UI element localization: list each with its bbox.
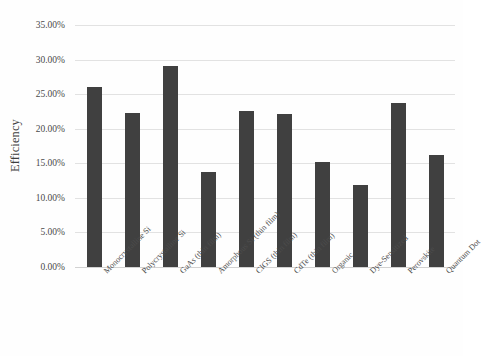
y-axis-title-text: Efficiency: [8, 119, 23, 172]
y-axis-tick-label: 20.00%: [5, 124, 65, 134]
y-axis-tick-label: 25.00%: [5, 89, 65, 99]
y-axis-title: Efficiency: [2, 0, 28, 290]
y-axis-tick-label: 15.00%: [5, 158, 65, 168]
y-axis-tick-label: 35.00%: [5, 20, 65, 30]
x-axis-category-labels: Monocrystalline SiPolycrystalline SiGaAs…: [75, 269, 455, 355]
bar: [353, 185, 368, 267]
bar: [87, 87, 102, 267]
y-axis-tick-label: 0.00%: [5, 262, 65, 272]
y-axis-tick-label: 5.00%: [5, 227, 65, 237]
y-axis-tick-label: 10.00%: [5, 193, 65, 203]
y-axis-tick-label: 30.00%: [5, 55, 65, 65]
